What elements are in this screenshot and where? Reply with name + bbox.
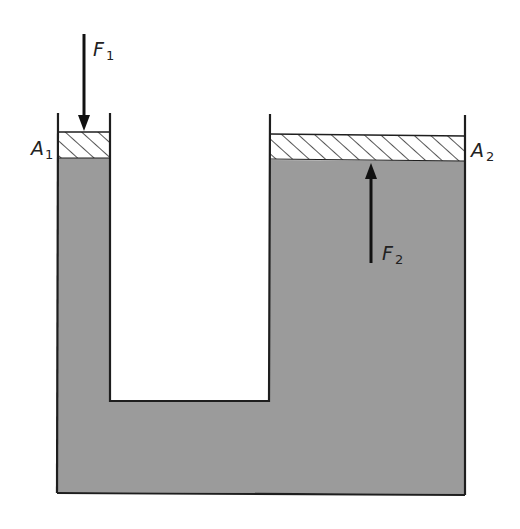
label-f1: F1 xyxy=(93,38,114,63)
large-piston xyxy=(270,134,465,161)
label-a2: A2 xyxy=(469,139,494,164)
label-a1: A1 xyxy=(29,137,53,162)
hydraulic-diagram: F1 F2 A1 A2 xyxy=(0,0,520,529)
small-piston xyxy=(58,132,110,158)
fluid xyxy=(57,158,465,494)
force-arrow-down-icon xyxy=(78,34,90,131)
diagram-canvas: F1 F2 A1 A2 xyxy=(0,0,520,529)
